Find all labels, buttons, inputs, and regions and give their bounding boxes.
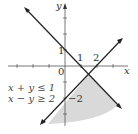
solution-region: [48, 74, 118, 124]
inequality-graph: y x 0 1 2 1 −2 x + y ≤ 1 x − y ≥ 2: [0, 0, 138, 134]
x-axis-label: x: [124, 65, 130, 76]
inequality-2: x − y ≥ 2: [8, 93, 55, 104]
x-tick-label-2: 2: [93, 52, 99, 63]
y-tick-label-1: 1: [58, 45, 64, 56]
y-axis-label: y: [55, 0, 62, 11]
y-tick-label-neg2: −2: [68, 93, 83, 104]
inequality-1: x + y ≤ 1: [8, 82, 55, 93]
x-tick-label-1: 1: [77, 52, 83, 63]
origin-label: 0: [58, 66, 64, 77]
y-axis-arrow-icon: [63, 3, 67, 9]
